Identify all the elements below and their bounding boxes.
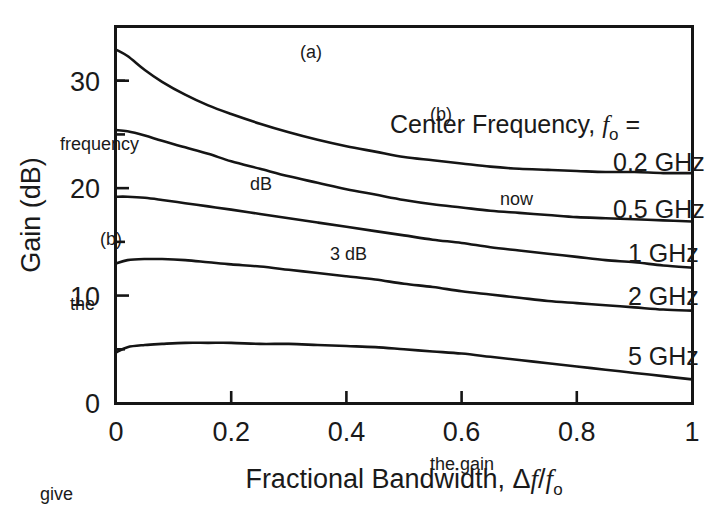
figure-container: (a)(b)frequencydBnow(b)3 dBthethe gaingi… <box>0 0 723 517</box>
series-label-0-2-ghz: 0.2 GHz <box>613 148 705 176</box>
y-tick-label: 20 <box>70 174 100 204</box>
data-series-curves <box>116 50 692 380</box>
bleed-through-text: 3 dB <box>330 244 367 264</box>
bleed-through-text: (b) <box>100 229 122 249</box>
x-title-lead: Fractional Bandwidth, <box>245 464 512 494</box>
y-tick-label: 10 <box>70 282 100 312</box>
x-axis-title: Fractional Bandwidth, Δf/fo <box>245 464 562 499</box>
series-curve-0-5-ghz <box>116 130 692 221</box>
series-label-0-5-ghz: 0.5 GHz <box>613 195 705 223</box>
plot-frame <box>116 27 693 404</box>
y-axis-tick-labels: 0102030 <box>70 67 100 419</box>
annotation-subscript: o <box>609 125 618 144</box>
series-curve-1-ghz <box>116 197 692 268</box>
bleed-through-text: dB <box>250 174 272 194</box>
x-axis-ticks <box>231 391 577 403</box>
series-curve-5-ghz <box>116 343 692 380</box>
series-label-1-ghz: 1 GHz <box>628 239 699 267</box>
x-axis-tick-labels: 00.20.40.60.81 <box>108 417 699 447</box>
bleed-through-text: give <box>40 484 73 504</box>
y-tick-label: 30 <box>70 67 100 97</box>
annotation-equals: = <box>619 110 641 138</box>
x-tick-label: 0.4 <box>328 417 366 447</box>
bleed-through-text: frequency <box>60 134 139 154</box>
annotation-lead: Center Frequency, <box>390 110 602 138</box>
y-tick-label: 0 <box>85 389 100 419</box>
x-tick-label: 0 <box>108 417 123 447</box>
x-tick-label: 0.6 <box>443 417 481 447</box>
bleed-through-text: now <box>500 189 534 209</box>
y-axis-title: Gain (dB) <box>16 157 46 273</box>
x-title-delta: Δ <box>513 464 531 494</box>
x-tick-label: 0.2 <box>212 417 250 447</box>
x-title-subscript: o <box>553 480 562 499</box>
series-inline-labels: 0.2 GHz0.5 GHz1 GHz2 GHz5 GHz <box>613 148 705 370</box>
series-label-5-ghz: 5 GHz <box>628 342 699 370</box>
series-label-2-ghz: 2 GHz <box>628 282 699 310</box>
series-curve-2-ghz <box>116 259 692 311</box>
gain-vs-fractional-bandwidth-chart: (a)(b)frequencydBnow(b)3 dBthethe gaingi… <box>0 0 723 517</box>
bleed-through-text: (a) <box>300 42 322 62</box>
center-frequency-annotation: Center Frequency, fo = <box>390 110 640 144</box>
x-tick-label: 1 <box>684 417 699 447</box>
y-axis-ticks <box>116 81 129 350</box>
x-tick-label: 0.8 <box>558 417 596 447</box>
